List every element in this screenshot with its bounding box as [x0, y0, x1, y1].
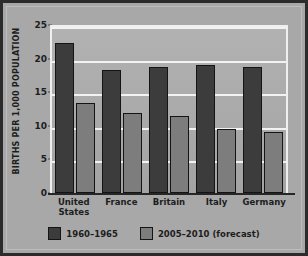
y-tick-label: 25 — [34, 20, 47, 30]
bar — [243, 67, 262, 193]
y-tick-label: 5 — [41, 154, 47, 164]
y-tick-label: 20 — [34, 54, 47, 64]
bar — [102, 70, 121, 193]
x-tick-label: Britain — [145, 197, 193, 217]
x-axis-baseline — [48, 193, 295, 195]
legend-item[interactable]: 1960–1965 — [48, 227, 118, 240]
bar — [196, 65, 215, 193]
chart-legend: 1960–19652005–2010 (forecast) — [3, 227, 305, 240]
x-tick-label: France — [98, 197, 146, 217]
bar-group — [239, 27, 286, 193]
bar-group — [146, 27, 193, 193]
bar — [123, 113, 142, 193]
chart-figure: BIRTHS PER 1,000 POPULATION 0510152025 U… — [0, 0, 308, 256]
y-axis-tick-labels: 0510152025 — [25, 25, 47, 193]
x-axis-category-labels: United StatesFranceBritainItalyGermany — [50, 197, 288, 217]
y-tick-label: 15 — [34, 87, 47, 97]
bar-group — [192, 27, 239, 193]
bar-group — [99, 27, 146, 193]
y-tick-label: 0 — [41, 188, 47, 198]
y-axis-title: BIRTHS PER 1,000 POPULATION — [12, 21, 24, 181]
bar — [264, 132, 283, 193]
bar-groups — [52, 27, 286, 193]
legend-swatch-icon — [48, 227, 61, 240]
legend-item[interactable]: 2005–2010 (forecast) — [140, 227, 260, 240]
x-tick-label: United States — [50, 197, 98, 217]
x-tick-label: Germany — [240, 197, 288, 217]
legend-swatch-icon — [140, 227, 153, 240]
bar — [170, 116, 189, 193]
bar-group — [52, 27, 99, 193]
bar — [55, 43, 74, 193]
plot-area — [50, 25, 288, 193]
legend-label: 1960–1965 — [66, 229, 118, 239]
legend-label: 2005–2010 (forecast) — [158, 229, 260, 239]
bar — [149, 67, 168, 193]
y-tick-label: 10 — [34, 121, 47, 131]
x-tick-label: Italy — [193, 197, 241, 217]
bar — [76, 103, 95, 193]
bar — [217, 129, 236, 193]
